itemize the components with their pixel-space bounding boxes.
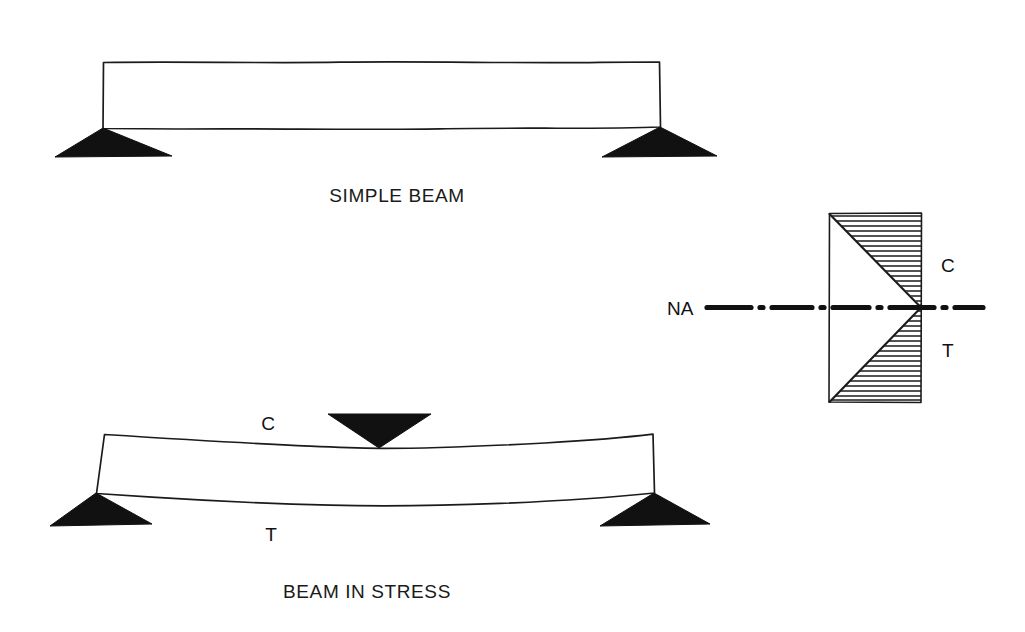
tension-label-section: T: [942, 340, 954, 361]
neutral-axis-label: NA: [667, 298, 694, 319]
diagram-page: SIMPLE BEAM: [0, 0, 1025, 632]
tension-stress-gradient-line: [830, 308, 921, 402]
tension-label-beam: T: [265, 524, 277, 545]
figure-simple-beam: SIMPLE BEAM: [55, 62, 717, 206]
compression-label-beam: C: [261, 413, 275, 434]
caption-simple-beam: SIMPLE BEAM: [329, 185, 464, 206]
point-load-triangle: [328, 414, 431, 448]
simple-beam-support-left: [55, 128, 172, 157]
simple-beam-outline: [103, 62, 661, 129]
simple-beam-support-right: [602, 127, 717, 157]
beam-stress-diagram: SIMPLE BEAM: [0, 0, 1025, 632]
tension-wedge-hatching: [826, 311, 926, 400]
figure-beam-in-stress: C T BEAM IN STRESS: [50, 413, 710, 602]
beam-stress-support-left: [50, 493, 152, 526]
figure-stress-distribution: NA C T: [667, 213, 983, 403]
caption-beam-in-stress: BEAM IN STRESS: [283, 581, 451, 602]
beam-stress-support-right: [600, 493, 710, 526]
compression-label-section: C: [941, 255, 955, 276]
